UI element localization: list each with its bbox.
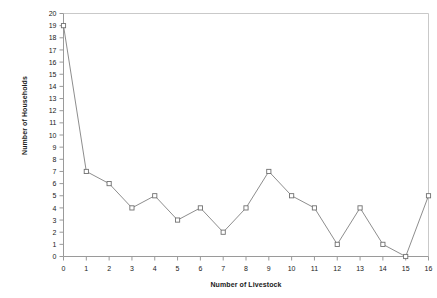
data-point-marker — [404, 254, 408, 258]
y-axis-tick-label: 15 — [49, 71, 57, 78]
data-point-marker — [426, 194, 430, 198]
y-axis-tick-label: 2 — [53, 229, 57, 236]
y-axis-tick-label: 4 — [53, 205, 57, 212]
y-axis-tick-label: 17 — [49, 47, 57, 54]
x-axis-tick-label: 12 — [333, 265, 341, 272]
data-point-marker — [381, 242, 385, 246]
data-point-marker — [221, 230, 225, 234]
y-axis-tick-label: 14 — [49, 83, 57, 90]
x-axis-tick-label: 9 — [267, 265, 271, 272]
y-axis-title: Number of Households — [21, 46, 28, 186]
x-axis-tick-label: 10 — [288, 265, 296, 272]
y-axis-tick-label: 0 — [53, 253, 57, 260]
y-axis-tick-label: 6 — [53, 180, 57, 187]
data-point-marker — [107, 182, 111, 186]
y-axis-tick-label: 10 — [49, 132, 57, 139]
y-axis-tick-label: 11 — [49, 119, 56, 126]
x-axis-tick-label: 13 — [356, 265, 364, 272]
x-axis-tick-label: 2 — [107, 265, 111, 272]
y-axis-tick-label: 7 — [53, 168, 57, 175]
x-axis-tick-label: 16 — [425, 265, 433, 272]
y-axis-tick-label: 3 — [53, 217, 57, 224]
y-axis-tick-label: 5 — [53, 192, 57, 199]
x-axis-tick-label: 7 — [221, 265, 225, 272]
y-axis-tick-label: 8 — [53, 156, 57, 163]
x-axis-tick-label: 14 — [379, 265, 387, 272]
line-chart-svg: 0123456789101112131415161718192001234567… — [0, 0, 437, 298]
y-axis-tick-label: 18 — [49, 34, 57, 41]
x-axis-tick-label: 4 — [153, 265, 157, 272]
x-axis-tick-label: 3 — [130, 265, 134, 272]
x-axis-title: Number of Livestock — [63, 281, 429, 288]
y-axis-tick-label: 9 — [53, 144, 57, 151]
data-point-marker — [358, 206, 362, 210]
y-axis-tick-label: 20 — [49, 10, 57, 17]
x-axis-tick-label: 8 — [244, 265, 248, 272]
data-point-marker — [290, 194, 294, 198]
x-axis-tick-label: 6 — [198, 265, 202, 272]
data-point-marker — [267, 169, 271, 173]
data-point-marker — [130, 206, 134, 210]
x-axis-tick-label: 0 — [62, 265, 66, 272]
x-axis-tick-label: 1 — [84, 265, 88, 272]
data-point-marker — [244, 206, 248, 210]
y-axis-tick-label: 13 — [49, 95, 57, 102]
x-axis-tick-label: 5 — [176, 265, 180, 272]
chart-container: 0123456789101112131415161718192001234567… — [0, 0, 437, 298]
x-axis-tick-label: 11 — [311, 265, 318, 272]
data-point-marker — [153, 194, 157, 198]
data-point-marker — [198, 206, 202, 210]
data-point-marker — [61, 24, 65, 28]
data-point-marker — [312, 206, 316, 210]
data-point-marker — [84, 169, 88, 173]
y-axis-tick-label: 19 — [49, 22, 57, 29]
data-point-marker — [335, 242, 339, 246]
data-point-marker — [175, 218, 179, 222]
x-axis-tick-label: 15 — [402, 265, 410, 272]
y-axis-tick-label: 16 — [49, 59, 57, 66]
y-axis-tick-label: 1 — [53, 241, 57, 248]
data-series-line — [64, 26, 429, 257]
y-axis-tick-label: 12 — [49, 107, 57, 114]
